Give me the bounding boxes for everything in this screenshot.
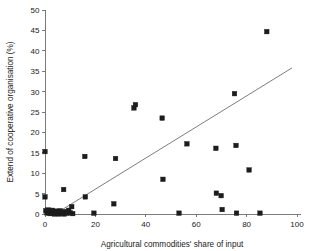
data-point-marker — [43, 149, 48, 154]
x-tick-label: 80 — [242, 220, 251, 229]
data-point-marker — [69, 204, 74, 209]
data-point-marker — [70, 211, 75, 216]
y-tick-label: 20 — [31, 128, 40, 137]
data-point-marker — [219, 193, 224, 198]
y-tick-label: 0 — [35, 210, 40, 219]
data-point-marker — [113, 156, 118, 161]
y-tick-label: 35 — [31, 67, 40, 76]
data-point-marker — [83, 154, 88, 159]
data-point-marker — [177, 211, 182, 216]
x-axis: 020406080100 — [43, 214, 304, 229]
data-point-marker — [220, 207, 225, 212]
x-tick-label: 100 — [290, 220, 304, 229]
x-tick-label: 0 — [43, 220, 48, 229]
y-axis: 05101520253035404550 — [31, 6, 45, 219]
data-point-marker — [160, 116, 165, 121]
y-axis-title: Extend of cooperative organisation (%) — [6, 41, 15, 182]
data-point-marker — [258, 211, 263, 216]
x-axis-title: Agricultural commodities' share of input — [101, 240, 244, 249]
data-point-marker — [112, 202, 117, 207]
data-point-marker — [264, 29, 269, 34]
y-tick-label: 15 — [31, 149, 40, 158]
y-tick-label: 40 — [31, 47, 40, 56]
trend-line-segment — [55, 68, 292, 214]
data-point-marker — [214, 146, 219, 151]
data-point-marker — [83, 195, 88, 200]
chart-canvas: 05101520253035404550 020406080100 Extend… — [0, 0, 314, 251]
y-tick-label: 50 — [31, 6, 40, 15]
data-point-marker — [92, 211, 97, 216]
x-tick-label: 60 — [192, 220, 201, 229]
x-tick-label: 20 — [91, 220, 100, 229]
y-tick-label: 10 — [31, 169, 40, 178]
data-point-marker — [185, 142, 190, 147]
data-point-marker — [247, 168, 252, 173]
y-tick-label: 25 — [31, 108, 40, 117]
scatter-plot-figure: 05101520253035404550 020406080100 Extend… — [0, 0, 314, 251]
data-point-marker — [234, 143, 239, 148]
trend-line — [55, 68, 292, 214]
data-point-marker — [161, 177, 166, 182]
x-tick-label: 40 — [141, 220, 150, 229]
data-point-marker — [214, 191, 219, 196]
data-point-marker — [234, 211, 239, 216]
y-tick-label: 45 — [31, 26, 40, 35]
data-point-marker — [133, 102, 138, 107]
data-point-marker — [61, 187, 66, 192]
data-point-marker — [232, 91, 237, 96]
data-points — [43, 29, 269, 216]
data-point-marker — [43, 195, 48, 200]
y-tick-label: 30 — [31, 88, 40, 97]
y-tick-label: 5 — [35, 190, 40, 199]
